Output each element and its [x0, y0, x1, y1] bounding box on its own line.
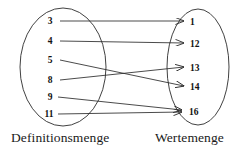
- codomain-element-0: 1: [190, 17, 195, 27]
- codomain-elements: 1 12 13 14 16: [189, 17, 200, 117]
- arrow-8-to-13: [60, 67, 184, 80]
- domain-element-2: 5: [48, 55, 53, 65]
- codomain-element-3: 14: [190, 82, 200, 92]
- arrow-5-to-14: [60, 60, 184, 86]
- domain-element-3: 8: [48, 75, 53, 85]
- codomain-element-1: 12: [190, 39, 200, 49]
- arrow-4-to-12: [60, 41, 184, 43]
- domain-element-0: 3: [48, 16, 53, 26]
- arrow-9-to-16: [58, 97, 182, 110]
- codomain-set-label: Wertemenge: [155, 130, 224, 146]
- diagram-canvas: 3 4 5 8 9 11 1 12 13 14 16 Definitionsme…: [0, 0, 249, 154]
- domain-elements: 3 4 5 8 9 11: [45, 16, 54, 119]
- domain-set-label: Definitionsmenge: [11, 130, 109, 146]
- domain-element-4: 9: [48, 92, 53, 102]
- codomain-element-4: 16: [189, 107, 199, 117]
- codomain-element-2: 13: [190, 63, 200, 73]
- domain-element-1: 4: [48, 36, 53, 46]
- mapping-arrows: [58, 21, 184, 114]
- domain-element-5: 11: [45, 109, 54, 119]
- arrow-11-to-16: [58, 112, 182, 114]
